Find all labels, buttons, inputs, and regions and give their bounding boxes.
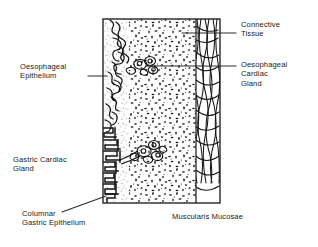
tissue-block [103, 19, 220, 203]
label-gastric-cardiac-gland: Gastric Cardiac Gland [13, 155, 97, 174]
figure-page: Connective Tissue Oesophageal Cardiac Gl… [0, 0, 318, 247]
lamina-propria-stipple [103, 19, 196, 203]
label-columnar-gastric-epithelium: Columnar Gastric Epithelium [22, 209, 110, 228]
label-muscularis-mucosae: Muscularis Mucosae [172, 212, 282, 221]
label-connective-tissue: Connective Tissue [241, 20, 315, 39]
label-oesophageal-epithelium: Oesophageal Epithelium [20, 62, 100, 81]
label-oesophageal-cardiac-gland: Oesophageal Cardiac Gland [241, 60, 315, 88]
